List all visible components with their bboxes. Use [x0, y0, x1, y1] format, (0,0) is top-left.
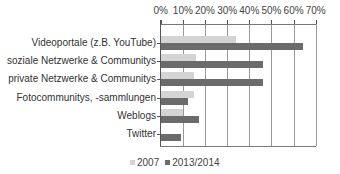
x-tick-label: 20% — [195, 5, 215, 16]
category-label: Twitter — [127, 128, 156, 139]
legend-label: 2013/2014 — [172, 157, 219, 168]
bar-2007 — [161, 109, 183, 116]
plot-bottom-border — [160, 146, 316, 147]
x-tick-label: 30% — [217, 5, 237, 16]
x-axis-line — [160, 24, 316, 25]
bar-2013-2014 — [161, 134, 181, 141]
legend-item: 2013/2014 — [165, 157, 219, 168]
category-label: private Netzwerke & Communitys — [8, 73, 156, 84]
legend-item: 2007 — [130, 157, 159, 168]
bar-2013-2014 — [161, 43, 303, 50]
bar-2013-2014 — [161, 116, 199, 123]
x-tick-label: 10% — [173, 5, 193, 16]
legend-swatch — [130, 160, 135, 165]
bar-2013-2014 — [161, 98, 188, 105]
x-tick-label: 0% — [153, 5, 167, 16]
x-tick-label: 60% — [284, 5, 304, 16]
legend-label: 2007 — [137, 157, 159, 168]
bar-2013-2014 — [161, 79, 263, 86]
bar-2007 — [161, 72, 194, 79]
legend: 20072013/2014 — [130, 157, 220, 168]
bar-2013-2014 — [161, 61, 263, 68]
x-tick-label: 70% — [306, 5, 326, 16]
category-label: soziale Netzwerke & Communitys — [7, 55, 156, 66]
category-label: Videoportale (z.B. YouTube) — [31, 37, 156, 48]
category-label: Fotocommunitys, -sammlungen — [17, 92, 157, 103]
x-tick-label: 40% — [239, 5, 259, 16]
category-label: Weblogs — [117, 110, 156, 121]
bar-2007 — [161, 36, 236, 43]
bar-2007 — [161, 91, 194, 98]
bar-2007 — [161, 54, 196, 61]
gridline — [316, 24, 317, 146]
x-tick-label: 50% — [261, 5, 281, 16]
legend-swatch — [165, 160, 170, 165]
